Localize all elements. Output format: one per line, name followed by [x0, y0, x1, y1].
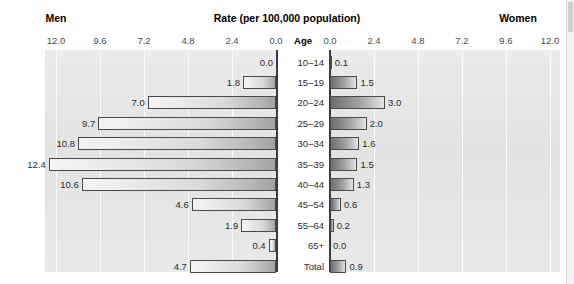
men-value-label: 0.4 — [226, 239, 266, 252]
men-bar — [49, 158, 276, 171]
men-value-label: 7.0 — [105, 96, 145, 109]
women-value-label: 0.6 — [344, 198, 357, 211]
women-value-label: 1.3 — [357, 178, 370, 191]
women-value-label: 1.6 — [362, 137, 375, 150]
right-tick-label: 2.4 — [359, 35, 389, 46]
right-tick-label: 0.0 — [315, 35, 345, 46]
women-bar — [330, 260, 346, 273]
left-tick-label: 9.6 — [85, 35, 115, 46]
men-bar — [190, 260, 276, 273]
left-tick-label: 2.4 — [217, 35, 247, 46]
women-bar — [330, 76, 357, 89]
right-tick-label: 7.2 — [447, 35, 477, 46]
age-group-label: 25–29 — [279, 117, 324, 130]
women-bar — [330, 219, 334, 232]
age-group-label: Total — [279, 260, 324, 273]
men-bar — [148, 96, 276, 109]
right-tick-label: 4.8 — [403, 35, 433, 46]
men-value-label: 12.4 — [6, 158, 46, 171]
women-value-label: 3.0 — [388, 96, 401, 109]
age-group-label: 35–39 — [279, 158, 324, 171]
women-bar — [330, 117, 367, 130]
men-bar — [78, 137, 276, 150]
age-group-label: 20–24 — [279, 96, 324, 109]
men-bar — [82, 178, 276, 191]
women-value-label: 0.1 — [335, 56, 348, 69]
left-tick-label: 4.8 — [173, 35, 203, 46]
age-group-label: 40–44 — [279, 178, 324, 191]
men-value-label: 10.6 — [39, 178, 79, 191]
men-value-label: 4.6 — [149, 198, 189, 211]
women-bar — [330, 137, 359, 150]
women-bar — [330, 178, 354, 191]
men-value-label: 0.0 — [233, 56, 273, 69]
gridline — [462, 50, 463, 272]
men-bar — [243, 76, 276, 89]
gridline — [506, 50, 507, 272]
right-tick-label: 12.0 — [535, 35, 565, 46]
women-bar — [330, 56, 332, 69]
men-value-label: 4.7 — [147, 260, 187, 273]
women-value-label: 0.2 — [337, 219, 350, 232]
women-value-label: 0.0 — [333, 239, 346, 252]
window-scrollbar-track[interactable] — [566, 0, 574, 284]
men-bar — [98, 117, 276, 130]
population-pyramid-chart: Men Rate (per 100,000 population) Women … — [0, 0, 574, 284]
men-panel-title: Men — [0, 12, 112, 24]
age-group-label: 10–14 — [279, 56, 324, 69]
women-bar — [330, 198, 341, 211]
left-tick-label: 0.0 — [261, 35, 291, 46]
age-group-label: 65+ — [279, 239, 324, 252]
age-group-label: 15–19 — [279, 76, 324, 89]
women-bar — [330, 96, 385, 109]
left-tick-label: 7.2 — [129, 35, 159, 46]
gridline — [418, 50, 419, 272]
men-value-label: 1.8 — [200, 76, 240, 89]
window-scrollbar-thumb[interactable] — [568, 2, 573, 32]
men-bar — [269, 239, 276, 252]
women-value-label: 1.5 — [360, 158, 373, 171]
age-column-header: Age — [288, 35, 318, 46]
men-value-label: 10.8 — [35, 137, 75, 150]
men-value-label: 1.9 — [198, 219, 238, 232]
left-tick-label: 12.0 — [41, 35, 71, 46]
gridline — [550, 50, 551, 272]
women-value-label: 2.0 — [370, 117, 383, 130]
men-bar — [192, 198, 276, 211]
women-value-label: 0.9 — [349, 260, 362, 273]
women-panel-title: Women — [462, 12, 574, 24]
women-value-label: 1.5 — [360, 76, 373, 89]
age-group-label: 55–64 — [279, 219, 324, 232]
men-zero-axis — [276, 50, 278, 272]
men-value-label: 9.7 — [55, 117, 95, 130]
age-group-label: 30–34 — [279, 137, 324, 150]
right-tick-label: 9.6 — [491, 35, 521, 46]
women-bar — [330, 158, 357, 171]
age-group-label: 45–54 — [279, 198, 324, 211]
men-bar — [241, 219, 276, 232]
chart-title: Rate (per 100,000 population) — [187, 12, 387, 24]
gridline — [374, 50, 375, 272]
